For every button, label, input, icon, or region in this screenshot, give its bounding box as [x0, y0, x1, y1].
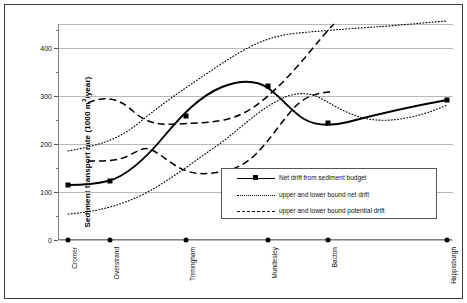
x-axis-label-happisburgh: Happisburgh [450, 247, 457, 284]
dashed-line-icon [237, 211, 275, 212]
data-marker-happisburgh [445, 98, 450, 103]
legend-label-potential-drift-bounds: upper and lower bound potential drift [279, 208, 385, 215]
legend-item-potential-drift-bounds: upper and lower bound potential drift [222, 203, 438, 220]
x-axis-dot-bacton [326, 238, 331, 243]
curve-potential-drift-upper-bound [88, 24, 334, 124]
x-axis-dot-overstrand [108, 238, 113, 243]
data-marker-trimingham [184, 114, 189, 119]
chart-legend: Net drift from sediment budget upper and… [221, 168, 437, 219]
legend-label-net-drift: Net drift from sediment budget [279, 175, 366, 182]
x-axis-label-cromer: Cromer [71, 247, 78, 269]
curve-net-drift-upper-bound [68, 21, 447, 151]
x-axis-label-mundesley: Mundesley [271, 247, 278, 278]
data-marker-bacton [326, 121, 331, 126]
legend-item-net-drift: Net drift from sediment budget [222, 170, 438, 187]
x-axis-dot-cromer [66, 238, 71, 243]
square-marker-icon [253, 175, 258, 180]
x-axis-label-trimingham: Trimingham [189, 247, 196, 281]
data-marker-cromer [66, 183, 71, 188]
legend-swatch-dotted-line [234, 190, 279, 202]
x-axis-dot-trimingham [184, 238, 189, 243]
legend-swatch-solid-square-line [234, 173, 279, 185]
legend-item-net-drift-bounds: upper and lower bound net drift [222, 187, 438, 204]
x-axis-dot-mundesley [266, 238, 271, 243]
legend-label-net-drift-bounds: upper and lower bound net drift [279, 192, 369, 199]
chart-figure: Sediment transport rate (1000 m3/year) 0… [0, 0, 467, 303]
data-marker-overstrand [108, 179, 113, 184]
legend-swatch-dashed-line [234, 206, 279, 218]
x-axis-dot-happisburgh [445, 238, 450, 243]
dotted-line-icon [237, 195, 275, 196]
x-axis-label-bacton: Bacton [331, 247, 338, 267]
x-axis-label-overstrand: Overstrand [113, 247, 120, 279]
data-marker-mundesley [266, 84, 271, 89]
